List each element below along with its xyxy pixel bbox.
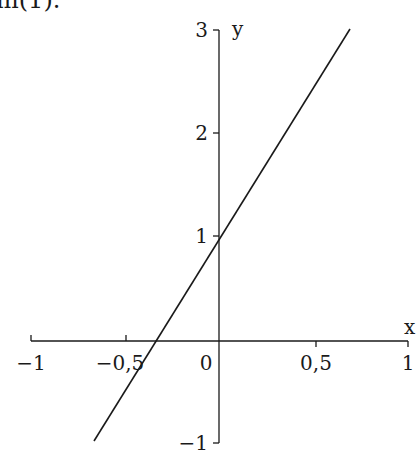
y-tick-label-1: 1	[195, 224, 208, 248]
function-line	[94, 29, 350, 441]
x-tick-label-0: 0	[200, 351, 213, 375]
y-tick-label-2: 2	[195, 121, 208, 145]
chart-canvas: −1 −0,5 0 0,5 1 3 2 1 −1 y x	[0, 0, 418, 457]
x-axis-label: x	[404, 315, 416, 339]
y-tick-label-neg1: −1	[179, 431, 208, 455]
x-tick-label-neg05: −0,5	[96, 351, 145, 375]
x-tick-label-05: 0,5	[300, 351, 332, 375]
x-tick-label-1: 1	[402, 351, 415, 375]
y-axis-label: y	[231, 17, 244, 41]
x-tick-label-neg1: −1	[16, 351, 45, 375]
y-tick-label-3: 3	[195, 18, 208, 42]
